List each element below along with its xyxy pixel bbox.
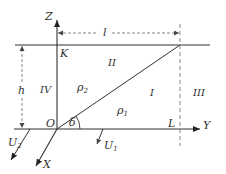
k-point-label: K [60,48,68,59]
rho-1-label: ρ1 [117,105,128,118]
angle-delta-label: δ [69,117,76,128]
region-3-label: III [193,88,205,98]
y-axis-label: Y [203,120,210,131]
l-dimension-label: l [103,27,107,38]
h-dimension-label: h [18,85,25,96]
z-axis-label: Z [45,11,53,22]
rho-2-label: ρ2 [77,82,88,95]
region-4-label: IV [40,85,51,95]
region-2-label: II [108,58,116,68]
geometry-diagram: Z K l h IV II I III ρ2 ρ1 O δ L Y X U2 U… [0,0,226,174]
u2-label: U2 [8,137,22,150]
region-1-label: I [150,88,154,98]
u1-velocity-arrow [97,129,103,144]
x-axis-label: X [43,159,51,170]
u1-label: U1 [104,140,118,153]
l-point-label: L [168,118,175,129]
angle-arc [76,116,80,129]
origin-label: O [46,118,55,129]
